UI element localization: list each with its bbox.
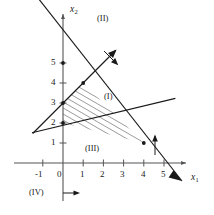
y-tick-label-3: 3 <box>51 98 56 107</box>
x-tick-label-5: 5 <box>161 170 166 179</box>
y-axis-title-subscript: 2 <box>75 8 78 15</box>
x-axis-title-base: x <box>191 172 195 182</box>
constraint-label-4: (IV) <box>29 188 44 197</box>
y-tick-label-1: 1 <box>51 138 56 147</box>
x-tick-label-4: 4 <box>141 170 146 179</box>
y-tick-label-2: 2 <box>51 118 56 127</box>
y-axis-title-base: x <box>70 4 74 14</box>
point-1-4 <box>81 81 85 85</box>
plot-canvas <box>0 0 214 215</box>
x-tick-label-3: 3 <box>120 170 125 179</box>
point-4-1 <box>142 141 146 145</box>
x-tick-label--1: -1 <box>35 170 43 179</box>
linear-programming-figure: -1 0 1 2 3 4 5 1 2 3 4 5 x2 x1 (I) (II) … <box>0 0 214 215</box>
y-axis-title: x2 <box>70 5 77 15</box>
direction-arrow-4 <box>63 190 80 195</box>
x-axis-title: x1 <box>191 173 198 183</box>
x-tick-label-0: 0 <box>57 170 62 179</box>
constraint-label-3: (III) <box>85 144 99 153</box>
point-0-3 <box>61 101 65 105</box>
x-tick-label-1: 1 <box>80 170 85 179</box>
point-0-2 <box>61 121 65 125</box>
x-tick-label-2: 2 <box>100 170 105 179</box>
constraint-label-2: (II) <box>97 14 108 23</box>
y-tick-label-4: 4 <box>51 78 56 87</box>
constraint-line-4 <box>63 190 80 195</box>
point-0-5 <box>61 61 65 65</box>
constraint-label-1: (I) <box>104 92 113 101</box>
x-axis-title-subscript: 1 <box>196 176 199 183</box>
y-tick-label-5: 5 <box>51 58 56 67</box>
